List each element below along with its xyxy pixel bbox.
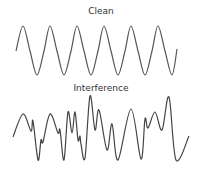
clean-wave [16, 26, 177, 75]
waveform-canvas [0, 0, 202, 172]
interference-wave [13, 96, 189, 161]
